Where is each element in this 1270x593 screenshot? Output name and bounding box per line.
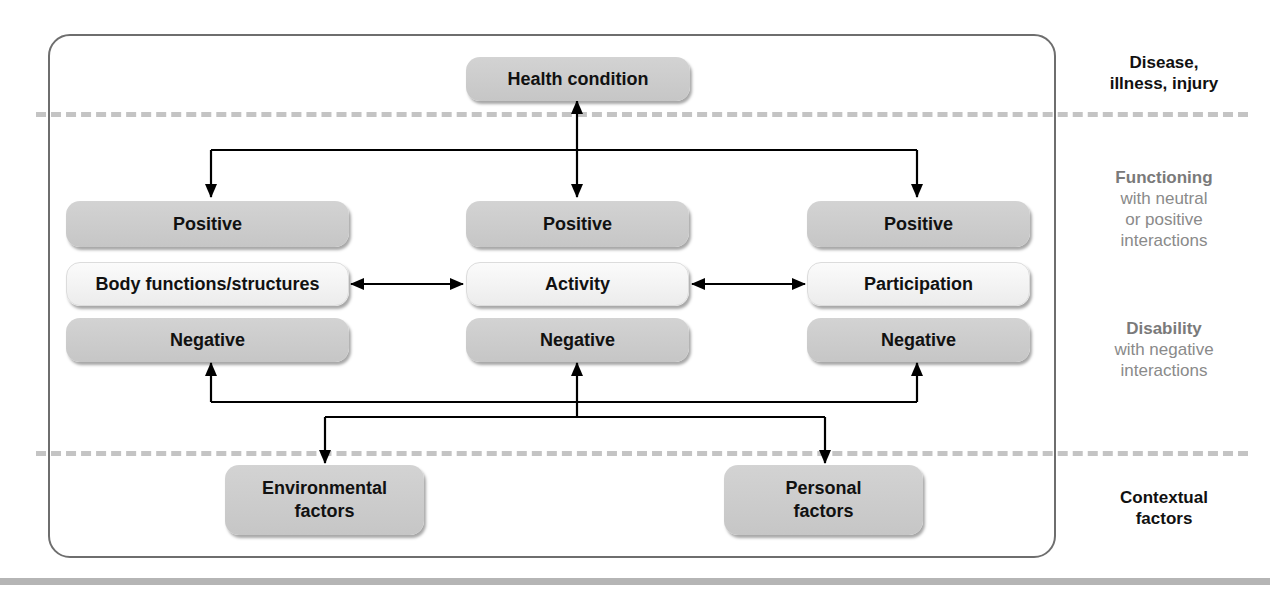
disability-heading: Disability bbox=[1064, 318, 1264, 339]
functioning-line1: with neutral bbox=[1064, 188, 1264, 209]
personal-factors-box: Personal factors bbox=[724, 465, 923, 535]
contextual-line1: Contextual bbox=[1064, 487, 1264, 508]
personal-line1: Personal bbox=[785, 477, 861, 500]
functioning-line3: interactions bbox=[1064, 230, 1264, 251]
health-condition-box: Health condition bbox=[466, 57, 690, 101]
body-negative-box: Negative bbox=[66, 318, 349, 362]
side-label-contextual: Contextual factors bbox=[1064, 487, 1264, 529]
body-functions-box: Body functions/structures bbox=[66, 262, 349, 306]
environmental-line1: Environmental bbox=[262, 477, 387, 500]
disability-line1: with negative bbox=[1064, 339, 1264, 360]
personal-line2: factors bbox=[793, 500, 853, 523]
disability-line2: interactions bbox=[1064, 360, 1264, 381]
environmental-factors-box: Environmental factors bbox=[225, 465, 424, 535]
side-label-disease: Disease, illness, injury bbox=[1064, 52, 1264, 94]
body-negative-label: Negative bbox=[170, 329, 245, 352]
functioning-line2: or positive bbox=[1064, 209, 1264, 230]
participation-positive-box: Positive bbox=[807, 201, 1030, 247]
participation-positive-label: Positive bbox=[884, 213, 953, 236]
disease-line2: illness, injury bbox=[1064, 73, 1264, 94]
activity-positive-box: Positive bbox=[466, 201, 689, 247]
participation-negative-box: Negative bbox=[807, 318, 1030, 362]
body-functions-label: Body functions/structures bbox=[95, 273, 319, 296]
participation-box: Participation bbox=[807, 262, 1030, 306]
activity-label: Activity bbox=[545, 273, 610, 296]
activity-negative-box: Negative bbox=[466, 318, 689, 362]
health-condition-label: Health condition bbox=[508, 68, 649, 91]
activity-positive-label: Positive bbox=[543, 213, 612, 236]
side-label-functioning: Functioning with neutral or positive int… bbox=[1064, 167, 1264, 251]
contextual-line2: factors bbox=[1064, 508, 1264, 529]
disease-line1: Disease, bbox=[1064, 52, 1264, 73]
activity-negative-label: Negative bbox=[540, 329, 615, 352]
functioning-heading: Functioning bbox=[1064, 167, 1264, 188]
participation-label: Participation bbox=[864, 273, 973, 296]
body-positive-box: Positive bbox=[66, 201, 349, 247]
participation-negative-label: Negative bbox=[881, 329, 956, 352]
activity-box: Activity bbox=[466, 262, 689, 306]
side-label-disability: Disability with negative interactions bbox=[1064, 318, 1264, 381]
environmental-line2: factors bbox=[294, 500, 354, 523]
body-positive-label: Positive bbox=[173, 213, 242, 236]
